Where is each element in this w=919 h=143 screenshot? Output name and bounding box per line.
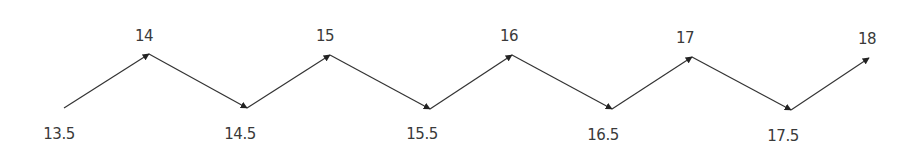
node-label-16: 16	[500, 27, 518, 45]
node-label-15: 15	[316, 27, 334, 45]
node-label-17: 17	[676, 29, 694, 47]
arrow-segment	[330, 55, 430, 109]
zigzag-diagram: 13.5 14 14.5 15 15.5 16 16.5 17 17.5 18	[0, 0, 919, 143]
node-label-13-5: 13.5	[43, 125, 74, 143]
node-label-17-5: 17.5	[767, 127, 798, 143]
node-label-14-5: 14.5	[224, 125, 255, 143]
node-label-16-5: 16.5	[587, 126, 618, 143]
arrow-segment	[512, 55, 612, 109]
node-labels: 13.5 14 14.5 15 15.5 16 16.5 17 17.5 18	[43, 27, 876, 143]
arrow-segments	[64, 54, 869, 110]
node-label-14: 14	[135, 27, 153, 45]
arrow-segment	[692, 57, 791, 110]
arrow-segment	[149, 54, 247, 108]
node-label-18: 18	[858, 30, 876, 48]
arrow-segment	[64, 54, 149, 108]
arrow-segment	[791, 58, 869, 110]
arrow-segment	[612, 57, 692, 109]
arrow-segment	[430, 55, 512, 109]
zigzag-arrow-diagram: 13.5 14 14.5 15 15.5 16 16.5 17 17.5 18	[0, 0, 919, 143]
node-label-15-5: 15.5	[406, 125, 437, 143]
arrow-segment	[247, 55, 330, 108]
